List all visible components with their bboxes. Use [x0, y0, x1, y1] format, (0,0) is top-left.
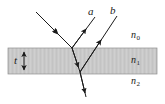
n2-subscript: 2	[137, 80, 141, 88]
incident-ray-arrowhead	[36, 12, 57, 33]
n1-symbol: n	[131, 54, 136, 65]
ray-b-label: b	[110, 5, 116, 16]
n2-symbol: n	[131, 75, 136, 86]
n0-symbol: n	[131, 29, 136, 40]
transmitted-ray-arrowhead	[80, 72, 85, 93]
n1-subscript: 1	[137, 59, 141, 67]
n0-subscript: 0	[137, 34, 141, 42]
figure-canvas	[0, 0, 165, 104]
thin-film-interference-figure: a b n0 n1 n2 t	[0, 0, 165, 104]
film-thickness-label: t	[14, 55, 17, 66]
ray-a-label: a	[88, 6, 94, 17]
refractive-index-n0-label: n0	[131, 30, 140, 40]
refractive-index-n2-label: n2	[131, 76, 140, 86]
refractive-index-n1-label: n1	[131, 55, 140, 65]
reflected-ray-a-arrowhead	[72, 29, 86, 48]
